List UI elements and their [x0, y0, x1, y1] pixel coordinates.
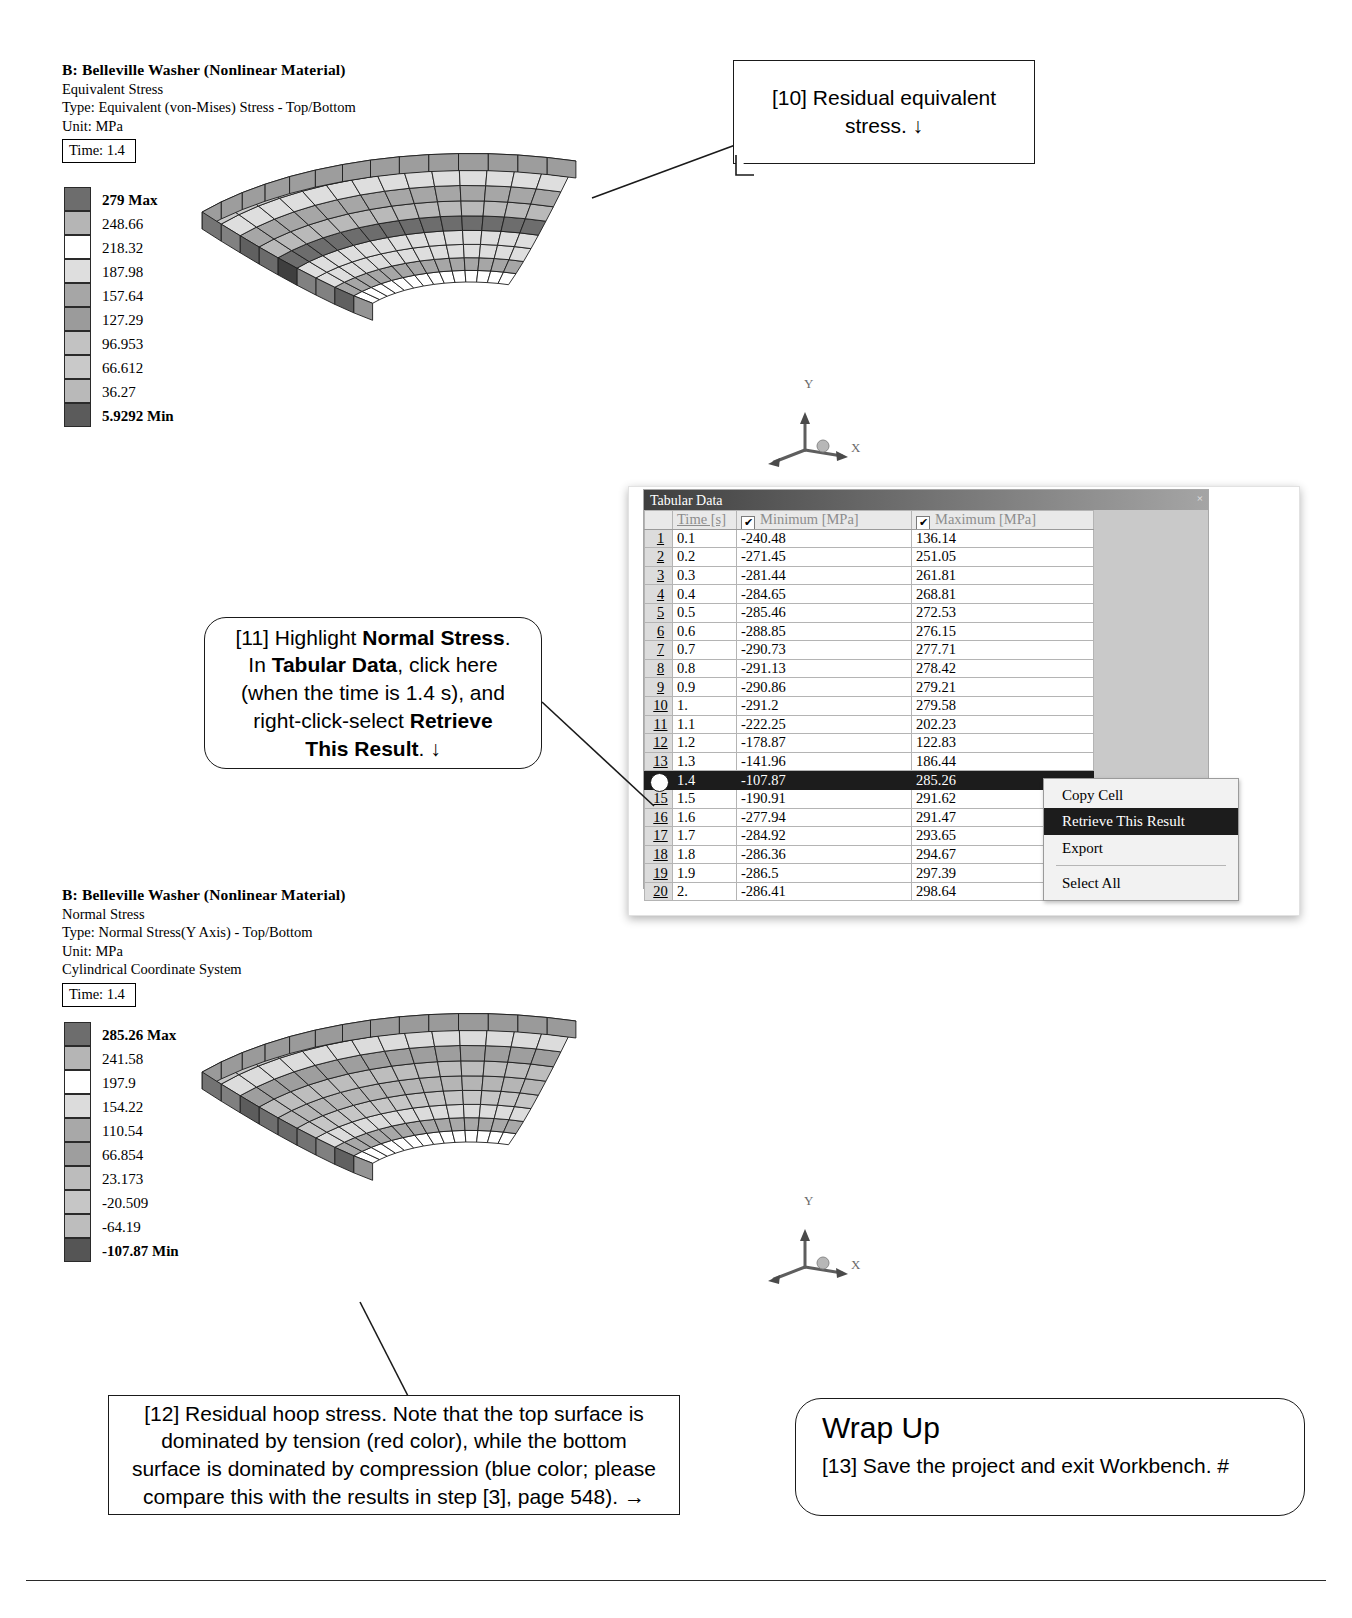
table-cell-minv[interactable]: -284.92: [737, 827, 912, 846]
table-cell-idx[interactable]: 20: [645, 882, 673, 901]
table-row[interactable]: 101.-291.2279.58: [645, 696, 1094, 715]
table-cell-idx[interactable]: 15: [645, 789, 673, 808]
table-cell-minv[interactable]: -271.45: [737, 548, 912, 567]
table-cell-time[interactable]: 1.9: [673, 864, 737, 883]
table-cell-maxv[interactable]: 251.05: [912, 548, 1094, 567]
context-menu-item[interactable]: Copy Cell: [1044, 782, 1238, 808]
table-cell-idx[interactable]: 1: [645, 529, 673, 548]
table-cell-time[interactable]: 1.: [673, 696, 737, 715]
table-row[interactable]: 111.1-222.25202.23: [645, 715, 1094, 734]
bottom-3d-viewport[interactable]: [170, 960, 790, 1350]
table-cell-maxv[interactable]: 261.81: [912, 566, 1094, 585]
table-cell-minv[interactable]: -286.5: [737, 864, 912, 883]
table-cell-time[interactable]: 1.8: [673, 845, 737, 864]
table-cell-idx[interactable]: 3: [645, 566, 673, 585]
table-cell-idx[interactable]: 16: [645, 808, 673, 827]
table-cell-minv[interactable]: -286.41: [737, 882, 912, 901]
table-cell-maxv[interactable]: 122.83: [912, 734, 1094, 753]
table-row[interactable]: 151.5-190.91291.62: [645, 789, 1094, 808]
table-cell-time[interactable]: 1.7: [673, 827, 737, 846]
table-row[interactable]: 181.8-286.36294.67: [645, 845, 1094, 864]
close-icon[interactable]: ×: [1197, 492, 1203, 504]
table-row[interactable]: 10.1-240.48136.14: [645, 529, 1094, 548]
table-cell-maxv[interactable]: 278.42: [912, 659, 1094, 678]
table-cell-idx[interactable]: 18: [645, 845, 673, 864]
context-menu[interactable]: Copy CellRetrieve This ResultExportSelec…: [1043, 778, 1239, 901]
top-3d-viewport[interactable]: [170, 100, 790, 490]
table-cell-maxv[interactable]: 279.21: [912, 678, 1094, 697]
table-cell-minv[interactable]: -285.46: [737, 603, 912, 622]
table-cell-idx[interactable]: 7: [645, 641, 673, 660]
table-row[interactable]: 121.2-178.87122.83: [645, 734, 1094, 753]
table-cell-maxv[interactable]: 186.44: [912, 752, 1094, 771]
table-cell-time[interactable]: 2.: [673, 882, 737, 901]
table-cell-minv[interactable]: -190.91: [737, 789, 912, 808]
table-cell-maxv[interactable]: 277.71: [912, 641, 1094, 660]
table-cell-time[interactable]: 0.3: [673, 566, 737, 585]
table-cell-maxv[interactable]: 272.53: [912, 603, 1094, 622]
column-header-minimum[interactable]: ✔Minimum [MPa]: [737, 511, 912, 530]
table-row[interactable]: 30.3-281.44261.81: [645, 566, 1094, 585]
table-cell-idx[interactable]: 8: [645, 659, 673, 678]
table-cell-minv[interactable]: -291.13: [737, 659, 912, 678]
table-cell-time[interactable]: 1.2: [673, 734, 737, 753]
table-row[interactable]: 20.2-271.45251.05: [645, 548, 1094, 567]
column-header-maximum[interactable]: ✔Maximum [MPa]: [912, 511, 1094, 530]
tabular-data-table[interactable]: Time [s] ✔Minimum [MPa] ✔Maximum [MPa] 1…: [644, 510, 1094, 901]
table-cell-time[interactable]: 0.7: [673, 641, 737, 660]
table-cell-idx[interactable]: 12: [645, 734, 673, 753]
table-row[interactable]: 141.4-107.87285.26: [645, 771, 1094, 790]
table-cell-idx[interactable]: 11: [645, 715, 673, 734]
context-menu-item[interactable]: Retrieve This Result: [1044, 808, 1238, 834]
table-row[interactable]: 202.-286.41298.64: [645, 882, 1094, 901]
table-cell-minv[interactable]: -107.87: [737, 771, 912, 790]
table-cell-idx[interactable]: 13: [645, 752, 673, 771]
table-row[interactable]: 60.6-288.85276.15: [645, 622, 1094, 641]
table-cell-minv[interactable]: -240.48: [737, 529, 912, 548]
column-header-time[interactable]: Time [s]: [673, 511, 737, 530]
table-cell-maxv[interactable]: 136.14: [912, 529, 1094, 548]
table-cell-time[interactable]: 1.6: [673, 808, 737, 827]
table-cell-time[interactable]: 0.4: [673, 585, 737, 604]
context-menu-item[interactable]: Export: [1044, 835, 1238, 861]
table-cell-time[interactable]: 0.9: [673, 678, 737, 697]
table-cell-time[interactable]: 1.3: [673, 752, 737, 771]
table-cell-maxv[interactable]: 202.23: [912, 715, 1094, 734]
table-cell-idx[interactable]: 2: [645, 548, 673, 567]
table-cell-maxv[interactable]: 268.81: [912, 585, 1094, 604]
context-menu-item[interactable]: Select All: [1044, 870, 1238, 896]
table-cell-minv[interactable]: -290.73: [737, 641, 912, 660]
table-row[interactable]: 161.6-277.94291.47: [645, 808, 1094, 827]
table-cell-idx[interactable]: 4: [645, 585, 673, 604]
table-cell-minv[interactable]: -288.85: [737, 622, 912, 641]
minimum-checkbox[interactable]: ✔: [741, 516, 755, 529]
table-row[interactable]: 70.7-290.73277.71: [645, 641, 1094, 660]
table-cell-minv[interactable]: -281.44: [737, 566, 912, 585]
table-cell-minv[interactable]: -291.2: [737, 696, 912, 715]
table-cell-minv[interactable]: -286.36: [737, 845, 912, 864]
table-cell-maxv[interactable]: 276.15: [912, 622, 1094, 641]
table-cell-idx[interactable]: 10: [645, 696, 673, 715]
maximum-checkbox[interactable]: ✔: [916, 516, 930, 529]
table-cell-maxv[interactable]: 279.58: [912, 696, 1094, 715]
table-cell-time[interactable]: 0.2: [673, 548, 737, 567]
table-cell-time[interactable]: 0.8: [673, 659, 737, 678]
table-cell-time[interactable]: 1.1: [673, 715, 737, 734]
table-cell-minv[interactable]: -290.86: [737, 678, 912, 697]
table-cell-time[interactable]: 0.1: [673, 529, 737, 548]
table-cell-idx[interactable]: 17: [645, 827, 673, 846]
table-row[interactable]: 171.7-284.92293.65: [645, 827, 1094, 846]
table-row[interactable]: 40.4-284.65268.81: [645, 585, 1094, 604]
table-cell-idx[interactable]: 19: [645, 864, 673, 883]
table-cell-minv[interactable]: -277.94: [737, 808, 912, 827]
table-row[interactable]: 90.9-290.86279.21: [645, 678, 1094, 697]
table-row[interactable]: 191.9-286.5297.39: [645, 864, 1094, 883]
table-row[interactable]: 50.5-285.46272.53: [645, 603, 1094, 622]
table-cell-minv[interactable]: -284.65: [737, 585, 912, 604]
table-cell-idx[interactable]: 6: [645, 622, 673, 641]
table-cell-idx[interactable]: 9: [645, 678, 673, 697]
table-cell-idx[interactable]: 5: [645, 603, 673, 622]
table-row[interactable]: 80.8-291.13278.42: [645, 659, 1094, 678]
table-cell-minv[interactable]: -222.25: [737, 715, 912, 734]
table-row[interactable]: 131.3-141.96186.44: [645, 752, 1094, 771]
